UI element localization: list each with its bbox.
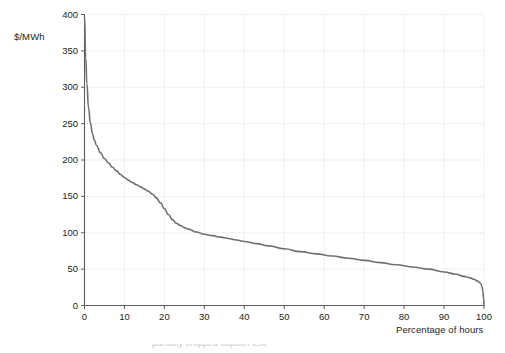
x-tick-label: 90 xyxy=(429,311,459,322)
y-tick-label: 350 xyxy=(52,45,78,56)
x-tick-label: 30 xyxy=(189,311,219,322)
cropped-footer-label: partially cropped caption text xyxy=(152,344,267,348)
y-tick-label: 250 xyxy=(52,118,78,129)
x-tick-label: 80 xyxy=(389,311,419,322)
y-tick-label: 50 xyxy=(52,263,78,274)
y-axis-title: $/MWh xyxy=(14,31,45,42)
y-tick-label: 0 xyxy=(52,300,78,311)
cropped-footer-text: partially cropped caption text xyxy=(0,344,505,353)
x-tick-label: 40 xyxy=(229,311,259,322)
x-tick-label: 0 xyxy=(70,311,100,322)
x-tick-label: 100 xyxy=(469,311,499,322)
x-axis-title: Percentage of hours xyxy=(396,324,483,335)
x-tick-label: 50 xyxy=(269,311,299,322)
x-tick-label: 60 xyxy=(309,311,339,322)
x-tick-label: 70 xyxy=(349,311,379,322)
y-tick-label: 400 xyxy=(52,9,78,20)
y-tick-label: 300 xyxy=(52,81,78,92)
y-tick-label: 100 xyxy=(52,227,78,238)
x-tick-label: 20 xyxy=(149,311,179,322)
x-tick-label: 10 xyxy=(109,311,139,322)
y-tick-label: 200 xyxy=(52,154,78,165)
y-tick-label: 150 xyxy=(52,190,78,201)
